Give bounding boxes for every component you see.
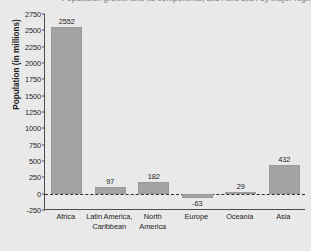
y-tick-mark: [42, 144, 45, 145]
bar[interactable]: [138, 182, 169, 194]
y-tick-mark: [42, 128, 45, 129]
bar[interactable]: [51, 27, 82, 194]
bar[interactable]: [182, 194, 213, 198]
bar-value-label: 29: [218, 182, 264, 191]
bar[interactable]: [95, 187, 126, 193]
bar[interactable]: [269, 165, 300, 193]
bar-value-label: -63: [174, 199, 220, 208]
x-axis-label-line: America: [126, 222, 180, 232]
bar-chart: Population growth and its components, 20…: [0, 0, 311, 251]
y-tick-mark: [42, 30, 45, 31]
y-tick-mark: [42, 63, 45, 64]
x-axis-label: Asia: [257, 212, 311, 222]
y-tick-mark: [42, 14, 45, 15]
plot-area: 2750250022502000175015001250100075050025…: [44, 14, 305, 210]
y-tick-mark: [42, 177, 45, 178]
bar-value-label: 182: [131, 172, 177, 181]
y-tick-mark: [42, 95, 45, 96]
zero-line: [45, 194, 305, 195]
x-axis-label-line: Asia: [257, 212, 311, 222]
bar-value-label: 432: [261, 155, 307, 164]
y-axis-title: Population (in millions): [12, 0, 21, 135]
y-tick-mark: [42, 79, 45, 80]
y-tick-mark: [42, 161, 45, 162]
bar-value-label: 2552: [44, 17, 90, 26]
y-tick-mark: [42, 46, 45, 47]
bar[interactable]: [225, 192, 256, 194]
y-tick-mark: [42, 112, 45, 113]
y-tick-mark: [42, 210, 45, 211]
bar-value-label: 97: [87, 177, 133, 186]
chart-title: Population growth and its components, 20…: [62, 0, 310, 3]
